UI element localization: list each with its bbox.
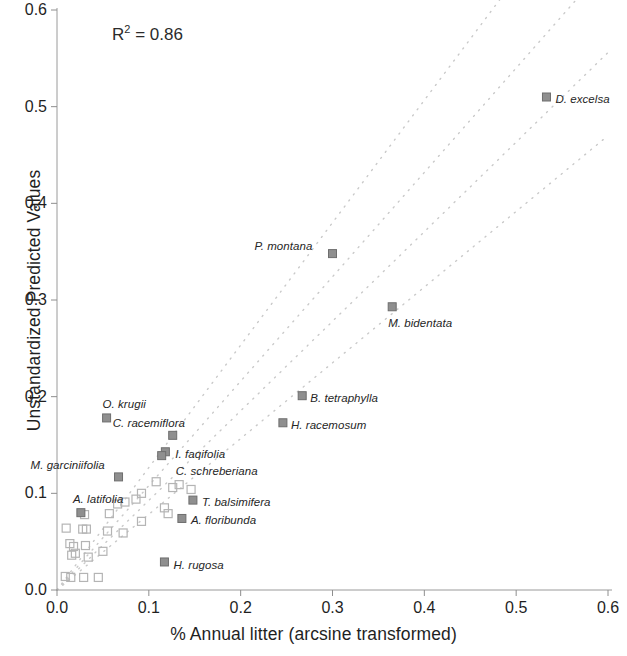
data-point-open-square — [187, 485, 195, 493]
point-label-c-racemiflora: C. racemiflora — [113, 417, 185, 429]
point-label-m-garciniifolia: M. garciniifolia — [31, 459, 105, 471]
x-tick-label: 0.0 — [35, 599, 79, 617]
data-point-filled-square — [160, 558, 168, 566]
data-point-open-square — [81, 542, 89, 550]
y-tick-label: 0.1 — [3, 484, 47, 502]
data-point-filled-square — [329, 250, 337, 258]
r-squared-base: R — [112, 25, 124, 44]
data-point-filled-square — [388, 303, 396, 311]
data-point-filled-square — [279, 419, 287, 427]
reference-line-band-lower-outer — [57, 136, 608, 590]
y-tick-label: 0.2 — [3, 388, 47, 406]
point-label-t-balsimifera: T. balsimifera — [202, 496, 271, 508]
x-tick-label: 0.6 — [586, 599, 627, 617]
x-tick-label: 0.5 — [494, 599, 538, 617]
data-point-open-square — [119, 529, 127, 537]
data-point-open-square — [99, 547, 107, 555]
data-point-open-square — [80, 573, 88, 581]
r-squared-annotation: R2 = 0.86 — [112, 23, 183, 45]
data-point-filled-square — [178, 514, 186, 522]
x-tick-label: 0.1 — [127, 599, 171, 617]
point-label-h-rugosa: H. rugosa — [173, 559, 223, 571]
data-point-filled-square — [189, 496, 197, 504]
data-point-open-square — [62, 524, 70, 532]
data-point-filled-square — [115, 473, 123, 481]
data-point-filled-square — [542, 93, 550, 101]
data-point-filled-square — [169, 431, 177, 439]
point-label-d-excelsa: D. excelsa — [555, 93, 609, 105]
reference-line-regression-line — [57, 53, 608, 590]
data-point-filled-square — [158, 452, 166, 460]
y-tick-label: 0.4 — [3, 194, 47, 212]
data-point-open-square — [94, 573, 102, 581]
x-tick-label: 0.2 — [219, 599, 263, 617]
point-label-a-floribunda: A. floribunda — [191, 514, 256, 526]
y-tick-label: 0.6 — [3, 1, 47, 19]
x-tick-label: 0.3 — [311, 599, 355, 617]
data-point-open-square — [137, 489, 145, 497]
y-tick-label: 0.3 — [3, 291, 47, 309]
plot-canvas — [0, 0, 627, 656]
r-squared-value: = 0.86 — [130, 25, 182, 44]
x-axis-title: % Annual litter (arcsine transformed) — [0, 624, 627, 645]
point-label-p-montana: P. montana — [255, 240, 313, 252]
data-point-filled-square — [77, 509, 85, 517]
x-tick-label: 0.4 — [402, 599, 446, 617]
data-point-filled-square — [298, 392, 306, 400]
data-point-open-square — [104, 527, 112, 535]
y-tick-label: 0.5 — [3, 98, 47, 116]
data-point-open-square — [132, 495, 140, 503]
point-label-b-tetraphylla: B. tetraphylla — [310, 392, 378, 404]
point-label-h-racemosum: H. racemosum — [291, 419, 366, 431]
data-point-filled-square — [103, 414, 111, 422]
data-point-open-square — [152, 478, 160, 486]
point-label-c-schreberiana: C. schreberiana — [176, 465, 258, 477]
labeled-data-points — [77, 93, 551, 566]
axes-group — [51, 8, 612, 596]
point-label-o-krugii: O. krugii — [103, 398, 146, 410]
point-label-m-bidentata: M. bidentata — [388, 317, 452, 329]
point-label-i-faqifolia: I. faqifolia — [175, 448, 225, 460]
data-point-open-square — [137, 517, 145, 525]
point-label-a-latifolia: A. latifolia — [73, 493, 123, 505]
y-tick-label: 0.0 — [3, 581, 47, 599]
scatter-plot-figure: R2 = 0.86 % Annual litter (arcsine trans… — [0, 0, 627, 656]
